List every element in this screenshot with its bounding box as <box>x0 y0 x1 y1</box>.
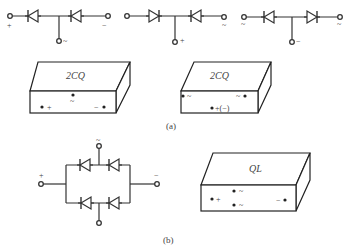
terminal-label: ~ <box>337 20 342 29</box>
terminal-label: ~ <box>241 20 246 29</box>
terminal-bottom <box>97 221 102 226</box>
diode-icon <box>78 197 94 209</box>
terminal-center <box>57 39 62 44</box>
pin-label: ~ <box>187 92 192 101</box>
terminal-label: + <box>180 36 185 45</box>
pin-label: +(−) <box>215 104 230 113</box>
package-2cq-2: 2CQ ~ ~ +(−) <box>181 62 271 113</box>
circuit-2: ~ + <box>125 10 227 45</box>
pin-label: ~ <box>239 187 244 196</box>
terminal-right <box>338 15 343 20</box>
circuit-1: + − ~ <box>7 10 110 46</box>
circuit-3: ~ ~ − <box>241 11 342 46</box>
diode-icon <box>304 11 320 23</box>
diode-icon <box>146 10 162 22</box>
diode-icon <box>106 159 122 171</box>
terminal-label: ~ <box>222 21 227 30</box>
diode-icon <box>68 10 84 22</box>
caption-a: (a) <box>166 121 176 131</box>
terminal-left <box>8 14 13 19</box>
terminal-right <box>106 14 111 19</box>
pin-label: ~ <box>239 201 244 210</box>
terminal-label: ~ <box>63 37 68 46</box>
terminal-label: + <box>7 21 12 30</box>
terminal-right <box>155 182 160 187</box>
diode-icon <box>188 10 204 22</box>
diode-icon <box>106 197 122 209</box>
pin-label: ~ <box>70 97 75 106</box>
caption-b: (b) <box>163 235 174 245</box>
terminal-center <box>290 40 295 45</box>
pin-label: − <box>94 103 99 112</box>
terminal-center <box>173 40 178 45</box>
terminal-left <box>125 14 130 19</box>
diode-icon <box>261 11 277 23</box>
package-title: 2CQ <box>210 70 230 81</box>
package-title: QL <box>249 163 262 174</box>
terminal-left <box>39 182 44 187</box>
terminal-label: − <box>154 171 159 180</box>
terminal-label: − <box>102 21 107 30</box>
terminal-label: − <box>296 37 301 46</box>
bridge-circuit: + − ~ <box>39 136 160 225</box>
terminal-right <box>222 15 227 20</box>
terminal-left <box>242 15 247 20</box>
package-ql: QL + ~ ~ − <box>201 153 310 211</box>
package-2cq-1: 2CQ + ~ − <box>30 62 130 113</box>
diode-icon <box>77 159 93 171</box>
diode-icon <box>25 10 41 22</box>
pin-label: + <box>216 195 221 204</box>
pin-label: − <box>276 196 281 205</box>
pin-label: + <box>47 103 52 112</box>
pin-label: ~ <box>236 92 241 101</box>
rectifier-diagram: + − ~ ~ + ~ ~ − 2CQ + ~ − <box>0 0 346 247</box>
package-title: 2CQ <box>66 70 86 81</box>
terminal-label: ~ <box>96 136 101 145</box>
terminal-label: + <box>39 171 44 180</box>
